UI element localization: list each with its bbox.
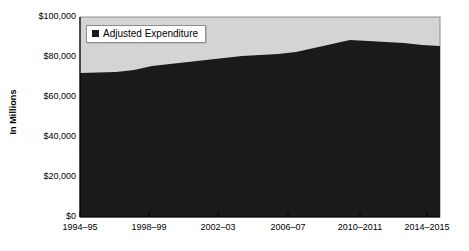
x-tick-label-2014-2015: 2014–2015	[404, 222, 449, 232]
area-chart: In Millions $100,000 $80,000 $60,000 $40…	[0, 0, 469, 251]
x-tick-label-1998-99: 1998–99	[131, 222, 166, 232]
chart-legend: Adjusted Expenditure	[86, 25, 206, 43]
legend-swatch-icon	[92, 30, 99, 37]
plot-area	[0, 0, 469, 251]
x-tick-label-2006-07: 2006–07	[270, 222, 305, 232]
x-tick-label-1994-95: 1994–95	[62, 222, 97, 232]
x-tick-label-2002-03: 2002–03	[200, 222, 235, 232]
x-tick-label-2010-2011: 2010–2011	[338, 222, 382, 232]
legend-label: Adjusted Expenditure	[103, 28, 198, 39]
